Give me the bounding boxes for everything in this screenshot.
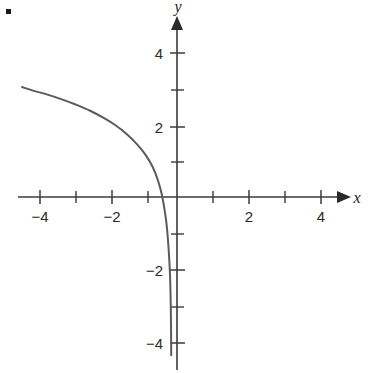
x-tick-label-neg2: −2: [103, 208, 120, 225]
y-tick-label-pos4: 4: [155, 45, 163, 62]
x-axis-label: x: [352, 189, 360, 206]
x-axis: [18, 191, 351, 203]
graph-figure: −4 −2 2 4 4 2 −2 −4 x y: [0, 0, 368, 373]
y-tick-label-neg4: −4: [146, 335, 163, 352]
x-tick-label-neg4: −4: [31, 208, 48, 225]
x-tick-label-pos2: 2: [245, 208, 253, 225]
coordinate-plane: −4 −2 2 4 4 2 −2 −4 x y: [0, 0, 368, 373]
x-tick-label-pos4: 4: [317, 208, 325, 225]
y-axis-label: y: [172, 0, 182, 16]
y-axis: [171, 16, 183, 370]
y-tick-label-neg2: −2: [146, 262, 163, 279]
y-tick-label-pos2: 2: [155, 119, 163, 136]
